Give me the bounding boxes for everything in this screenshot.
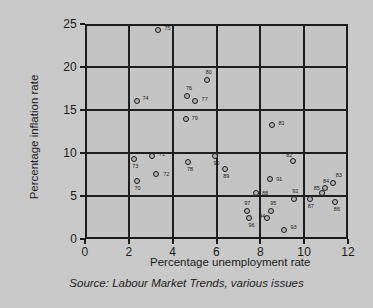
data-point [192,98,198,104]
data-point-label: 87 [308,203,314,209]
data-point-label: 94 [259,213,265,219]
data-point [134,178,140,184]
data-point-label: 83 [336,172,342,178]
data-point-label: 92 [292,188,298,194]
x-tickmark [259,239,261,244]
y-tickmark [80,152,85,154]
x-tick-label: 0 [82,246,89,258]
y-tick-label: 0 [51,233,77,245]
data-point-label: 76 [186,85,192,91]
x-tickmark [303,239,305,244]
data-point-label: 81 [278,120,284,126]
x-tick-label: 2 [125,246,132,258]
data-point-label: 90 [213,160,219,166]
y-tickmark [80,238,85,240]
gridline-vertical [172,24,174,239]
data-point-label: 78 [187,166,193,172]
data-point [307,196,313,202]
data-point [244,208,250,214]
data-point-label: 77 [202,96,208,102]
data-point-label: 82 [286,152,292,158]
data-point-label: 72 [163,171,169,177]
gridline-vertical [303,24,305,239]
data-point-label: 89 [223,173,229,179]
y-tickmark [80,195,85,197]
y-tick-label: 15 [51,104,77,116]
gridline-horizontal [85,109,348,111]
data-point [290,158,296,164]
data-point [134,98,140,104]
y-tick-label: 20 [51,61,77,73]
y-axis-title: Percentage inflation rate [28,57,40,217]
data-point [149,153,155,159]
data-point-label: 70 [135,185,141,191]
data-point [153,171,159,177]
data-point-label: 88 [262,190,268,196]
data-point [246,215,252,221]
x-tick-label: 12 [341,246,355,258]
gridline-horizontal [85,66,348,68]
data-point [204,77,210,83]
y-tickmark [80,66,85,68]
data-point-label: 73 [132,163,138,169]
data-point-label: 84 [323,178,329,184]
y-tick-label: 10 [51,147,77,159]
x-tickmark [172,239,174,244]
x-tickmark [128,239,130,244]
data-point [267,176,273,182]
data-point-label: 93 [290,224,296,230]
data-point-label: 75 [164,25,170,31]
y-tick-label: 25 [51,18,77,30]
x-tickmark [347,239,349,244]
data-point-label: 80 [206,69,212,75]
data-point [332,199,338,205]
data-point-label: 85 [314,185,320,191]
data-point [212,153,218,159]
data-point-label: 97 [244,200,250,206]
y-tickmark [80,23,85,25]
data-point-label: 79 [192,115,198,121]
data-point-label: 71 [159,151,165,157]
scatter-chart-figure: 0246810120510152025 70717273747576777879… [0,0,373,308]
data-point-label: 86 [334,206,340,212]
x-tickmark [216,239,218,244]
data-point-label: 95 [270,200,276,206]
gridline-vertical [216,24,218,239]
x-axis-title: Percentage unemployment rate [150,256,310,268]
data-point [330,180,336,186]
y-tick-label: 5 [51,190,77,202]
data-point-label: 96 [248,222,254,228]
gridline-vertical [128,24,130,239]
source-caption: Source: Labour Market Trends, various is… [0,277,373,289]
gridline-vertical [259,24,261,239]
data-point-label: 74 [143,95,149,101]
data-point-label: 91 [276,176,282,182]
y-tickmark [80,109,85,111]
